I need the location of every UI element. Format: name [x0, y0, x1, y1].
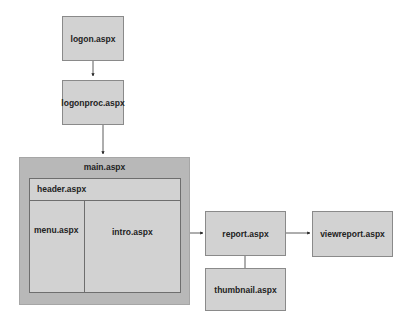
node-logonproc-label: logonproc.aspx	[61, 98, 124, 108]
node-logon: logon.aspx	[62, 16, 124, 61]
node-header-label: header.aspx	[37, 184, 86, 194]
node-logon-label: logon.aspx	[71, 34, 116, 44]
node-intro-label: intro.aspx	[112, 227, 153, 237]
node-intro: intro.aspx	[85, 201, 180, 292]
node-main-label: main.aspx	[20, 162, 189, 172]
node-thumbnail: thumbnail.aspx	[205, 268, 286, 311]
node-main-container: main.aspx header.aspx menu.aspx intro.as…	[19, 157, 190, 305]
node-report-label: report.aspx	[222, 229, 268, 239]
node-viewreport: viewreport.aspx	[312, 211, 393, 257]
main-frameset: header.aspx menu.aspx intro.aspx	[29, 178, 181, 293]
node-header: header.aspx	[30, 179, 180, 201]
node-menu-label: menu.aspx	[34, 225, 78, 235]
node-report: report.aspx	[205, 211, 286, 256]
node-thumbnail-label: thumbnail.aspx	[214, 285, 276, 295]
node-logonproc: logonproc.aspx	[62, 80, 124, 125]
node-menu: menu.aspx	[30, 201, 85, 292]
node-viewreport-label: viewreport.aspx	[320, 229, 385, 239]
